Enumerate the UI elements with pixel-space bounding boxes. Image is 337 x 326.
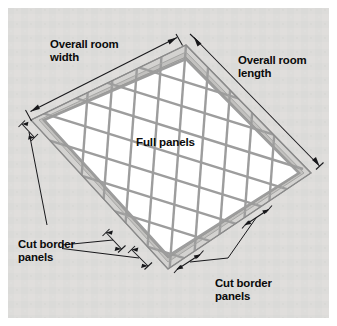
full-panels-line1: Full panels <box>136 135 195 148</box>
cut-border-left-line2: panels <box>18 251 53 263</box>
ceiling-layout-diagram: Overall room width Overall room length F… <box>0 0 337 326</box>
label-full-panels: Full panels <box>136 135 195 148</box>
cut-border-bottom-line1: Cut border <box>215 277 272 289</box>
overall-room-width-line1: Overall room <box>50 38 118 50</box>
diagram-canvas: Overall room width Overall room length F… <box>0 0 337 326</box>
overall-room-length-line2: length <box>238 67 271 79</box>
cut-border-bottom-line2: panels <box>215 290 250 302</box>
cut-border-left-line1: Cut border <box>18 238 75 250</box>
overall-room-width-line2: width <box>49 51 79 63</box>
overall-room-length-line1: Overall room <box>238 54 306 66</box>
